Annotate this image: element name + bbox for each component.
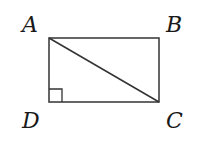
diagonal-ac [49, 38, 159, 102]
right-angle-marker [49, 89, 62, 102]
vertex-label-d: D [21, 108, 40, 133]
vertex-label-a: A [20, 12, 38, 37]
vertex-label-c: C [166, 108, 183, 133]
geometry-diagram: A B C D [0, 0, 201, 141]
vertex-label-b: B [165, 12, 182, 37]
